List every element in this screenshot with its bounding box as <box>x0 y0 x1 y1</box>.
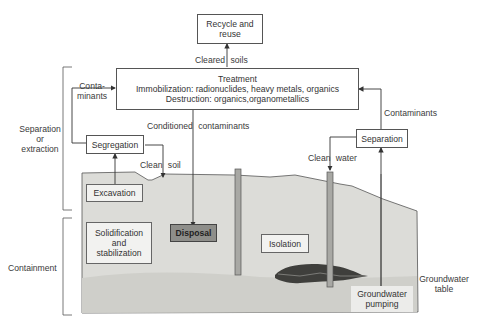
conta-text: Conta- <box>77 81 107 91</box>
separation-extraction-label: Separation or extraction <box>18 124 62 154</box>
water-text: water <box>336 153 357 163</box>
treatment-box: Treatment Immobilization: radionuclides,… <box>116 68 359 110</box>
excavation-label: Excavation <box>93 188 135 198</box>
separation-box: Separation <box>356 129 408 148</box>
contaminants-left-label: Conta- minants <box>77 81 107 101</box>
contaminants-right-text: Contaminants <box>384 108 437 118</box>
pumping-well <box>327 172 333 287</box>
separation-side-text: Separation <box>18 124 62 134</box>
isolation-label: Isolation <box>269 239 301 249</box>
groundwater-pumping-box: Groundwater pumping <box>351 286 413 312</box>
segregation-box: Segregation <box>86 135 144 154</box>
soils-text: soils <box>231 55 248 65</box>
segregation-label: Segregation <box>92 140 138 150</box>
contaminants-text: contaminants <box>198 121 249 131</box>
clean-water-clean-text: Clean <box>308 153 330 163</box>
clean-water-label: Clean water <box>308 153 357 163</box>
containment-text: Containment <box>8 263 57 273</box>
recycle-reuse-box: Recycle and reuse <box>197 14 263 44</box>
excavation-box: Excavation <box>86 184 143 202</box>
conditioned-text: Conditioned <box>147 121 193 131</box>
separation-label: Separation <box>361 134 403 144</box>
barrier-well-left <box>235 169 241 275</box>
extraction-text: extraction <box>18 144 62 154</box>
clean-text: Clean <box>140 160 162 170</box>
contaminants-right-label: Contaminants <box>384 108 437 118</box>
disposal-label: Disposal <box>176 228 212 238</box>
treatment-title: Treatment <box>218 74 257 84</box>
containment-label: Containment <box>8 263 57 273</box>
clean-soil-label: Clean soil <box>140 160 181 170</box>
cleared-soils-label: Cleared soils <box>195 55 248 65</box>
treatment-destruction: Destruction: organics,organometallics <box>166 94 309 104</box>
groundwater-text: Groundwater <box>417 274 471 284</box>
solidification-label: Solidification and stabilization <box>89 228 149 258</box>
conditioned-contaminants-label: Conditioned contaminants <box>147 121 249 131</box>
groundwater-pumping-label: Groundwater pumping <box>353 289 411 309</box>
minants-text: minants <box>77 91 107 101</box>
isolation-box: Isolation <box>261 234 309 253</box>
bracket-separation <box>63 67 72 210</box>
or-text: or <box>18 134 62 144</box>
diagram-canvas <box>0 0 479 330</box>
recycle-reuse-label: Recycle and reuse <box>202 19 258 39</box>
groundwater-table-label: Groundwater table <box>417 274 471 294</box>
table-text: table <box>417 284 471 294</box>
solidification-box: Solidification and stabilization <box>86 222 152 264</box>
disposal-box: Disposal <box>170 224 217 242</box>
treatment-immobilization: Immobilization: radionuclides, heavy met… <box>136 84 339 94</box>
bracket-containment <box>63 218 72 315</box>
soil-text: soil <box>168 160 181 170</box>
cleared-text: Cleared <box>195 55 225 65</box>
